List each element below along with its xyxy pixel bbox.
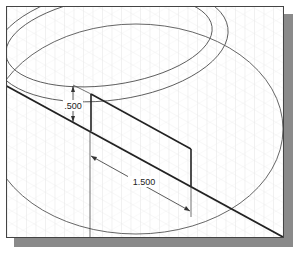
frame-shadow-right [284, 14, 293, 247]
dimension-length-label: 1.500 [133, 177, 156, 187]
drawing-svg: .500 1.500 [7, 7, 283, 237]
frame-shadow-bottom [14, 238, 293, 247]
drawing-canvas[interactable]: .500 1.500 [6, 6, 284, 238]
dimension-height-label: .500 [64, 101, 82, 111]
